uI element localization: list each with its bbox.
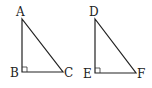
right-angle-mark-b	[22, 67, 27, 72]
vertex-label-b: B	[10, 66, 19, 80]
triangle-abc: A B C	[10, 5, 73, 80]
vertex-label-c: C	[64, 66, 73, 80]
right-angle-mark-e	[95, 68, 100, 73]
vertex-label-e: E	[83, 67, 92, 81]
diagram-canvas: A B C D E F	[0, 0, 152, 88]
vertex-label-f: F	[137, 67, 145, 81]
vertex-label-d: D	[89, 5, 99, 19]
triangle-def: D E F	[83, 5, 145, 81]
triangle-def-outline	[95, 19, 136, 73]
vertex-label-a: A	[15, 5, 25, 19]
triangle-abc-outline	[22, 19, 63, 72]
